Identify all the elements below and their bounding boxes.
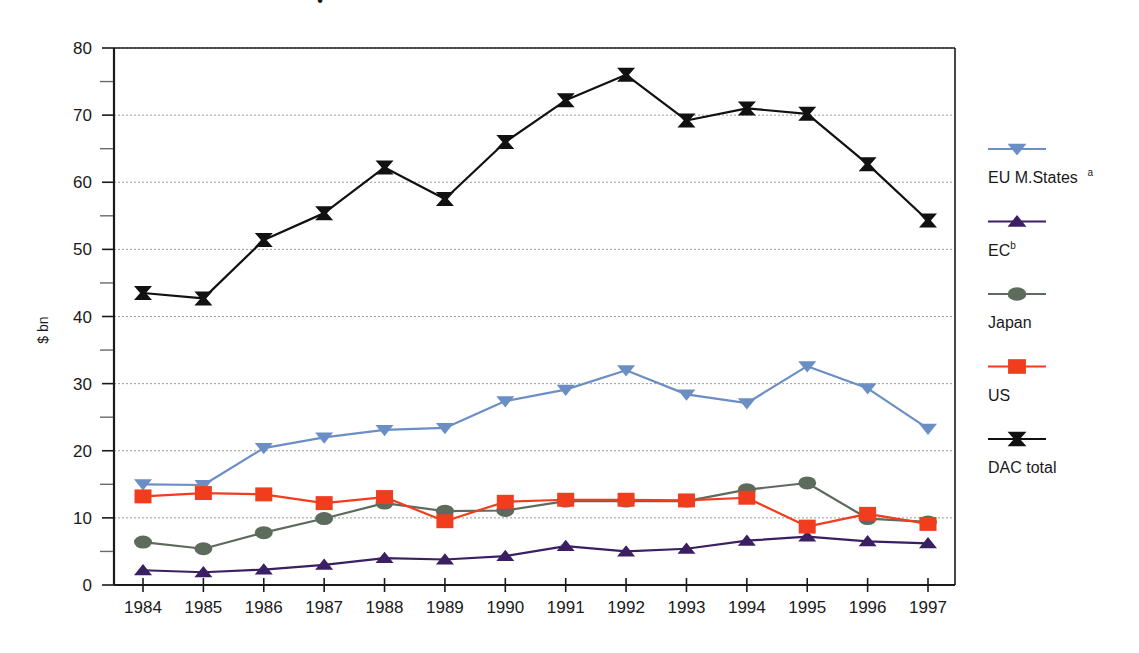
y-tick-label-40: 40 [73, 308, 92, 327]
data-point [799, 520, 816, 534]
data-point [920, 517, 937, 531]
y-axis-title: $ bn [35, 316, 51, 343]
data-point [678, 493, 695, 507]
legend-label: DAC total [988, 459, 1056, 476]
legend-swatch-marker [1008, 359, 1026, 374]
data-point [135, 489, 152, 503]
x-tick-label-1994: 1994 [728, 598, 766, 617]
x-tick-label-1996: 1996 [849, 598, 887, 617]
x-tick-label-1986: 1986 [245, 598, 283, 617]
data-point [859, 507, 876, 521]
x-tick-label-1989: 1989 [426, 598, 464, 617]
title-fragment: • [317, 0, 323, 9]
data-point [134, 536, 152, 549]
x-tick-label-1992: 1992 [607, 598, 645, 617]
legend-label: Japan [988, 314, 1032, 331]
data-point [557, 493, 574, 507]
x-tick-label-1985: 1985 [184, 598, 222, 617]
x-tick-label-1991: 1991 [547, 598, 585, 617]
legend-label: EU M.States [988, 169, 1078, 186]
x-tick-label-1987: 1987 [305, 598, 343, 617]
data-point [618, 493, 635, 507]
y-axis-tick-labels: 01020304050607080 [73, 39, 92, 595]
y-tick-label-10: 10 [73, 509, 92, 528]
legend-label: US [988, 387, 1010, 404]
x-tick-label-1993: 1993 [668, 598, 706, 617]
x-tick-label-1995: 1995 [788, 598, 826, 617]
y-tick-label-30: 30 [73, 375, 92, 394]
data-point [255, 487, 272, 501]
data-point [738, 491, 755, 505]
x-tick-label-1990: 1990 [486, 598, 524, 617]
legend-label-superscript: b [1010, 240, 1016, 251]
x-tick-label-1997: 1997 [909, 598, 947, 617]
y-tick-label-60: 60 [73, 173, 92, 192]
chart-figure: • 01020304050607080 19841985198619871988… [0, 0, 1139, 653]
x-tick-label-1988: 1988 [366, 598, 404, 617]
legend-swatch-marker [1008, 287, 1027, 301]
data-point [316, 496, 333, 510]
legend-label-superscript: a [1088, 167, 1094, 178]
data-point [497, 495, 514, 509]
data-point [436, 514, 453, 528]
y-tick-label-80: 80 [73, 39, 92, 58]
y-tick-label-0: 0 [83, 576, 92, 595]
data-point [194, 542, 212, 555]
y-tick-label-50: 50 [73, 240, 92, 259]
y-tick-label-20: 20 [73, 442, 92, 461]
data-point [195, 486, 212, 500]
data-point [798, 476, 816, 489]
x-tick-label-1984: 1984 [124, 598, 162, 617]
line-chart-svg: • 01020304050607080 19841985198619871988… [0, 0, 1139, 653]
data-point [376, 490, 393, 504]
data-point [315, 512, 333, 525]
data-point [255, 526, 273, 539]
legend-label: EC [988, 242, 1010, 259]
y-tick-label-70: 70 [73, 106, 92, 125]
